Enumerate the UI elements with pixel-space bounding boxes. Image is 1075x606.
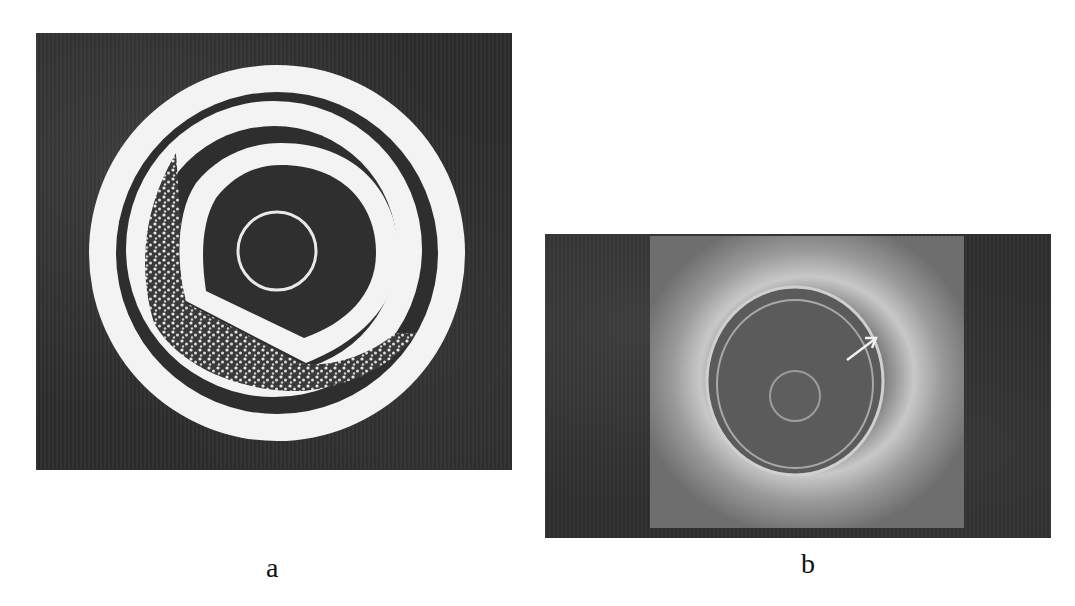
ivus-scan xyxy=(545,234,1051,538)
panel-b-ivus-image xyxy=(545,234,1051,538)
catheter-circle xyxy=(770,371,820,421)
panel-a-caption: a xyxy=(266,552,278,584)
phantom-rings xyxy=(36,33,512,470)
panel-a-phantom-image xyxy=(36,33,512,470)
panel-b-caption: b xyxy=(801,548,815,580)
